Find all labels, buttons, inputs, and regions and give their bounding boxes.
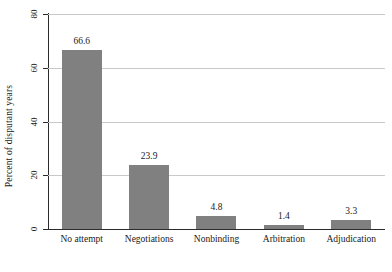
bar-group: 1.4 [250,14,317,229]
bar-value-label: 1.4 [278,211,290,222]
bar[interactable] [264,225,304,229]
bar[interactable] [196,216,236,229]
bar-group: 23.9 [115,14,182,229]
bar-group: 66.6 [48,14,115,229]
y-tick-label: 80 [29,1,41,27]
x-axis-label: No attempt [48,234,115,244]
bar-chart: Percent of disputant years 020406080 66.… [0,0,392,272]
x-axis-label: Negotiations [115,234,182,244]
y-tick-mark [43,229,48,230]
plot-area: 66.623.94.81.43.3 [48,14,385,229]
bar[interactable] [62,50,102,229]
x-axis-line [48,229,385,230]
y-tick-label: 20 [29,162,41,188]
bar-value-label: 3.3 [345,206,357,217]
y-tick-label: 40 [29,109,41,135]
bar-value-label: 66.6 [73,36,90,47]
y-tick-label: 0 [29,216,41,242]
bar-group: 4.8 [183,14,250,229]
bar-value-label: 4.8 [211,202,223,213]
x-axis-label: Arbitration [250,234,317,244]
bar[interactable] [331,220,371,229]
bar[interactable] [129,165,169,229]
bar-value-label: 23.9 [141,151,158,162]
bar-group: 3.3 [318,14,385,229]
x-axis-label: Nonbinding [183,234,250,244]
y-tick-label: 60 [29,55,41,81]
x-axis-label: Adjudication [318,234,385,244]
y-axis-title: Percent of disputant years [0,0,18,272]
